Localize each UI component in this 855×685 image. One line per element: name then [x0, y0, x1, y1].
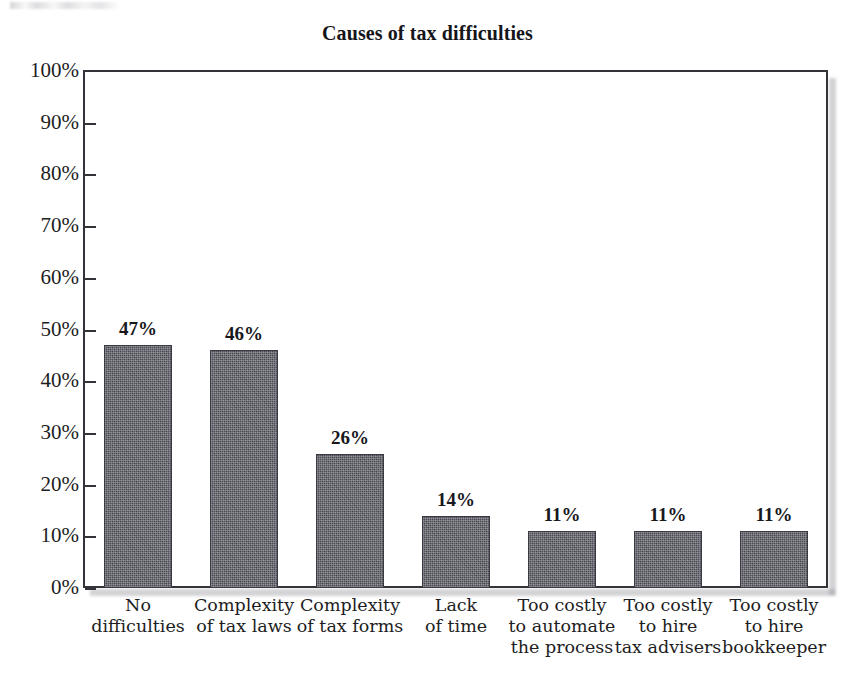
x-axis-labels: NodifficultiesComplexityof tax lawsCompl… — [0, 0, 855, 685]
x-axis-tick-label-line: to hire — [712, 616, 836, 637]
x-axis-tick-label: Too costlyto hirebookkeeper — [712, 595, 836, 658]
x-axis-tick-label-line: bookkeeper — [712, 637, 836, 658]
x-axis-tick-label-line: Too costly — [712, 595, 836, 616]
